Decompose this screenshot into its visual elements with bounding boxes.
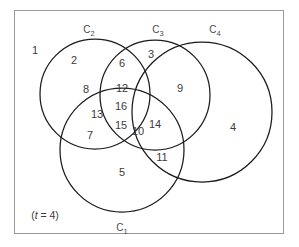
region-label-15: 15: [115, 120, 127, 131]
set-label-c3: C3: [152, 25, 163, 38]
region-label-1: 1: [32, 45, 38, 56]
set-label-c1: C1: [116, 223, 127, 236]
circle-c3: [100, 40, 210, 150]
venn-diagram-figure: C2 C3 C4 C1 1 2 3 4 5 6 7 8 9 10 11 12 1…: [0, 0, 299, 247]
set-subscript-c2: 2: [91, 29, 95, 38]
region-label-6: 6: [119, 58, 125, 69]
region-label-9: 9: [177, 83, 183, 94]
region-label-11: 11: [156, 152, 167, 163]
parameter-symbol: t: [35, 209, 38, 221]
region-label-2: 2: [71, 55, 77, 66]
region-label-3: 3: [148, 49, 154, 60]
region-label-5: 5: [119, 167, 125, 178]
set-label-c4: C4: [209, 25, 220, 38]
parameter-value: 4: [50, 209, 56, 221]
region-label-10: 10: [132, 126, 144, 137]
region-label-8: 8: [83, 84, 89, 95]
region-label-14: 14: [149, 119, 161, 130]
region-label-13: 13: [91, 109, 103, 120]
parameter-annotation: (t = 4): [31, 210, 59, 221]
set-label-c2: C2: [83, 25, 94, 38]
circle-c4: [132, 42, 272, 182]
set-subscript-c3: 3: [160, 29, 164, 38]
region-label-4: 4: [230, 122, 236, 133]
region-label-12: 12: [116, 83, 128, 94]
region-label-7: 7: [87, 130, 93, 141]
set-subscript-c4: 4: [217, 29, 221, 38]
region-label-16: 16: [115, 101, 127, 112]
set-subscript-c1: 1: [124, 227, 128, 236]
